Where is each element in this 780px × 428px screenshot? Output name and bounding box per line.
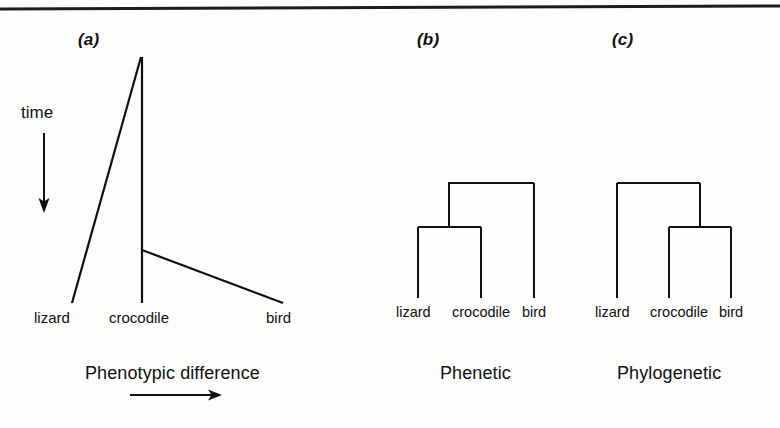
- branch-root-to-lizard: [72, 57, 141, 303]
- panel-b-dendrogram: [418, 183, 534, 298]
- taxon-label-c-bird: bird: [719, 305, 743, 320]
- top-separator-rule: [0, 5, 780, 11]
- taxon-label-b-crocodile: crocodile: [452, 305, 510, 320]
- taxon-label-a-bird: bird: [266, 310, 291, 325]
- taxon-label-b-lizard: lizard: [396, 305, 431, 320]
- taxon-label-b-bird: bird: [522, 305, 546, 320]
- taxon-label-a-crocodile: crocodile: [109, 310, 169, 325]
- caption-b-phenetic: Phenetic: [440, 364, 511, 382]
- taxon-label-a-lizard: lizard: [34, 310, 70, 325]
- branch-split-to-bird: [142, 250, 283, 303]
- taxon-label-c-lizard: lizard: [595, 305, 630, 320]
- panel-a-phenogram: [39, 57, 284, 401]
- panel-label-c: (c): [612, 31, 633, 48]
- panel-label-a: (a): [78, 31, 99, 48]
- time-axis-label: time: [21, 104, 53, 121]
- panel-c-dendrogram: [617, 183, 731, 298]
- panel-label-b: (b): [417, 31, 439, 48]
- figure-container: (a) (b) (c) time lizard crocodile bird P…: [0, 0, 780, 428]
- taxon-label-c-crocodile: crocodile: [650, 305, 708, 320]
- caption-a-phenotypic-difference: Phenotypic difference: [85, 364, 260, 382]
- caption-c-phylogenetic: Phylogenetic: [617, 364, 721, 382]
